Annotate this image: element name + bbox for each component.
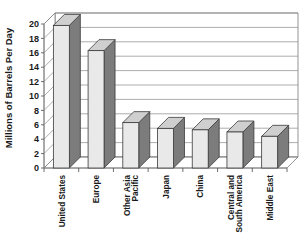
y-axis-tick-label: 2 [34,149,39,159]
y-axis-tick-label: 4 [34,134,39,144]
bar-front-face [158,128,174,168]
bar[interactable] [158,117,185,168]
x-axis-category-label: United States [58,175,67,228]
y-axis-tick-label: 20 [29,19,39,29]
x-axis-category-label: Pacific [131,175,140,202]
y-axis-ticks-group: 20181614121086420 [29,19,44,173]
y-axis-tick-label: 10 [29,91,39,101]
bar-front-face [123,123,139,168]
bar-front-face [227,132,243,168]
bar[interactable] [192,119,219,168]
x-axis-category-label: Europe [92,175,101,204]
y-axis-tick-label: 16 [29,48,39,58]
x-axis-category-label: South America [235,175,244,233]
bar[interactable] [123,112,150,168]
y-axis-title: Millions of Barrels Per Day [3,27,14,148]
bar-side-face [69,14,80,168]
y-axis-tick-label: 6 [34,120,39,130]
y-axis-tick-label: 0 [34,163,39,173]
bar[interactable] [262,125,289,168]
bar-side-face [104,40,115,168]
bar-front-face [192,130,208,168]
bar[interactable] [88,40,115,168]
y-axis-tick-label: 8 [34,106,39,116]
y-axis-tick-label: 18 [29,34,39,44]
bar-chart: 20181614121086420United StatesEuropeOthe… [0,0,303,240]
x-axis-category-label: Japan [162,175,171,199]
y-axis-tick-label: 14 [29,62,39,72]
chart-canvas: 20181614121086420United StatesEuropeOthe… [0,0,303,240]
x-axis-category-label: Middle East [266,175,275,221]
x-axis-labels-group: United StatesEuropeOther AsiaPacificJapa… [58,175,275,233]
bar[interactable] [53,14,80,168]
bar[interactable] [227,121,254,168]
bar-front-face [262,136,278,168]
bar-front-face [53,25,69,168]
y-axis-tick-label: 12 [29,77,39,87]
x-axis-ticks-group [44,168,287,172]
bar-front-face [88,51,104,168]
x-axis-category-label: China [196,175,205,198]
